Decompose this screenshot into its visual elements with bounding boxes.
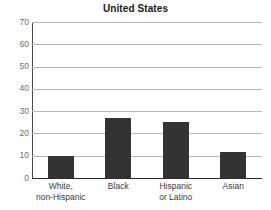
bar[interactable] [48,156,74,178]
x-axis-line [32,178,262,179]
bar[interactable] [220,152,246,178]
x-axis-label-line: White, [49,181,73,191]
y-axis-tick-label: 30 [3,107,29,116]
bar-chart: United States 706050403020100 White,non-… [0,0,271,210]
x-axis-category-label: Asian [198,181,268,192]
bar-slot [90,22,148,178]
y-axis-tick-labels: 706050403020100 [0,0,29,210]
x-axis-label-line: non-Hispanic [26,192,96,203]
y-axis-tick-label: 60 [3,40,29,49]
y-axis-tick-label: 70 [3,18,29,27]
x-axis-category-labels: White,non-HispanicBlackHispanicor Latino… [32,181,262,209]
x-axis-label-line: Black [108,181,129,191]
y-axis-tick-label: 40 [3,84,29,93]
bar-slot [205,22,263,178]
bar[interactable] [163,122,189,178]
plot-area [32,22,262,178]
x-axis-label-line: or Latino [141,192,211,203]
bar-slot [32,22,90,178]
y-axis-tick-label: 10 [3,151,29,160]
chart-title: United States [0,3,271,15]
y-axis-tick-label: 20 [3,129,29,138]
x-axis-label-line: Hispanic [159,181,192,191]
bar-slot [147,22,205,178]
bar[interactable] [105,118,131,178]
x-axis-label-line: Asian [223,181,244,191]
y-axis-tick-label: 50 [3,62,29,71]
